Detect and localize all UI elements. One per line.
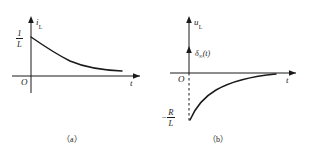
curve-voltage-rise [190, 74, 276, 120]
panel-b: uL t O δ∞(t) − R L （b） [156, 0, 312, 156]
x-axis-label-b: t [286, 76, 289, 85]
y-axis-label-b: uL [194, 18, 202, 29]
impulse-arrowhead-icon [186, 46, 192, 53]
impulse-function-label: δ∞(t) [195, 49, 210, 58]
minus-sign-b: − [162, 113, 167, 122]
figure-container: iL t O 1 L （a） uL t O δ∞(t) [0, 0, 312, 156]
y-axis-arrowhead-b [186, 16, 192, 23]
caption-a: （a） [62, 133, 82, 144]
x-axis-label-a: t [130, 79, 133, 88]
y-axis-label-a: iL [36, 18, 42, 29]
origin-label-b: O [178, 75, 185, 84]
caption-b: （b） [208, 133, 228, 144]
y-tick-label-a: 1 L [16, 29, 23, 49]
y-tick-label-b: − R L [162, 108, 175, 128]
x-axis-arrowhead-b [289, 70, 296, 76]
origin-label-a: O [21, 78, 28, 87]
y-axis-arrowhead-a [28, 16, 34, 23]
x-axis-arrowhead-a [133, 73, 140, 79]
panel-a: iL t O 1 L （a） [0, 0, 156, 156]
curve-current-decay [31, 37, 122, 71]
